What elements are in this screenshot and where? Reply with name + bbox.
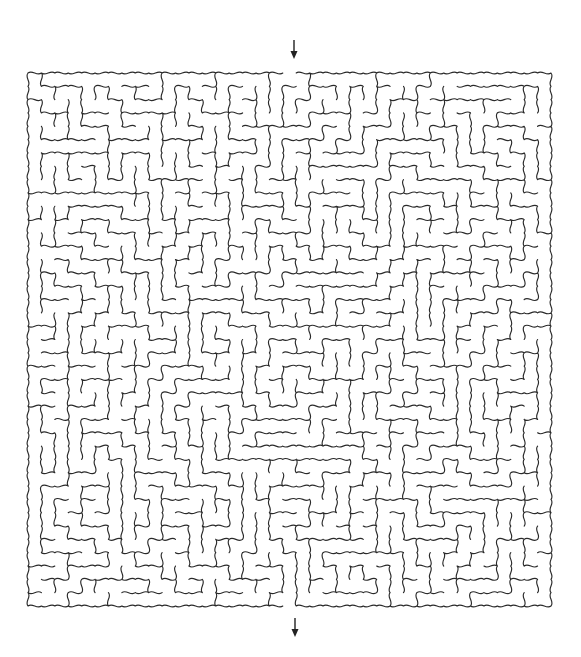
exit-arrow-icon bbox=[292, 618, 299, 637]
maze-board[interactable] bbox=[0, 0, 581, 657]
maze-wall-path bbox=[27, 72, 552, 607]
entrance-arrow-icon bbox=[291, 40, 298, 59]
maze-walls bbox=[27, 72, 552, 607]
